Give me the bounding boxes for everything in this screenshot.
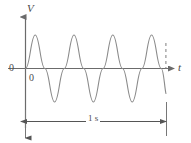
y-axis-label: V [27, 3, 34, 14]
y-axis-zero-label: 0 [9, 63, 14, 73]
origin-zero-label: 0 [29, 73, 34, 83]
duration-label: 1 s [86, 114, 100, 123]
ac-voltage-waveform-figure: V t 0 0 1 s [0, 0, 191, 143]
x-axis-label: t [178, 62, 181, 73]
